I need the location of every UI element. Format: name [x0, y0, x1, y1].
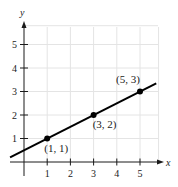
line-series — [10, 83, 156, 157]
y-tick-label: 3 — [12, 86, 17, 97]
x-tick-label: 5 — [138, 168, 143, 179]
x-axis-arrow-icon — [157, 160, 164, 165]
data-point — [137, 89, 143, 95]
y-tick-label: 4 — [12, 63, 17, 74]
y-axis-arrow-icon — [22, 21, 27, 28]
x-tick-label: 4 — [114, 168, 119, 179]
y-axis-label: y — [19, 7, 25, 18]
y-tick-label: 2 — [12, 110, 17, 121]
y-tick-label: 5 — [12, 39, 17, 50]
y-tick-label: 1 — [12, 133, 17, 144]
tick-marks: 1234512345 — [12, 39, 143, 179]
x-axis-label: x — [165, 157, 171, 168]
data-line — [10, 83, 156, 157]
x-tick-label: 2 — [68, 168, 73, 179]
point-label: (1, 1) — [44, 142, 68, 155]
point-label: (5, 3) — [116, 73, 140, 86]
x-tick-label: 1 — [45, 168, 50, 179]
x-tick-label: 3 — [91, 168, 96, 179]
line-chart: 1234512345 (1, 1)(3, 2)(5, 3) x y — [0, 0, 178, 187]
point-label: (3, 2) — [93, 118, 117, 131]
